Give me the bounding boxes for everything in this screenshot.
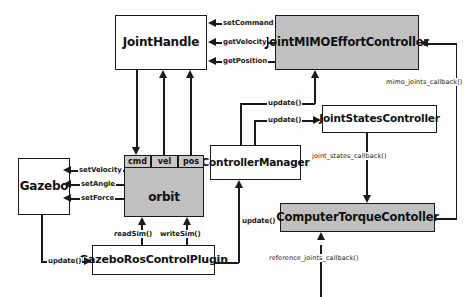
edge-joint-states-callback-arrowhead <box>363 195 371 203</box>
edge-label-get-velocity: getVelocity <box>222 38 267 46</box>
edge-label-set-angle: setAngle <box>80 180 116 188</box>
edge-label-get-position: getPosition <box>222 57 268 65</box>
edge-reference-joints-callback-arrowhead <box>317 232 325 240</box>
edge-update-manager-vertical <box>238 188 240 263</box>
node-orbit-label: orbit <box>148 191 180 204</box>
edge-mimo-callback-bottom-segment <box>435 218 457 220</box>
edge-label-update-states: update() <box>267 116 302 124</box>
node-computer-torque-controller: ComputerTorqueContoller <box>280 203 435 232</box>
edge-update-states-vertical <box>254 120 256 146</box>
node-joint-states-controller-label: JointStatesController <box>319 113 439 124</box>
edge-set-velocity-arrowhead <box>63 166 71 174</box>
edge-mimo-callback-top-segment <box>428 43 457 45</box>
edge-joint-handle-to-cmd-line <box>136 70 138 148</box>
node-gazebo-label: Gazebo <box>20 180 69 193</box>
edge-set-command-arrowhead <box>208 19 216 27</box>
diagram-canvas: JointHandle JointMIMOEffortController Jo… <box>0 0 473 297</box>
edge-label-write-sim: writeSim() <box>159 230 202 238</box>
node-joint-handle: JointHandle <box>115 15 207 70</box>
edge-joint-states-callback-line <box>366 133 368 195</box>
edge-update-states-arrowhead <box>313 116 321 124</box>
edge-update-gazebo-arrowhead <box>84 257 92 265</box>
node-joint-handle-label: JointHandle <box>123 36 199 49</box>
edge-mimo-callback-arrowhead <box>420 39 428 47</box>
node-joint-mimo-effort-controller: JointMIMOEffortController <box>275 15 419 70</box>
edge-label-update-gazebo: update() <box>47 257 82 265</box>
edge-mimo-callback-vertical-segment <box>456 43 458 219</box>
edge-reference-joints-callback-line <box>320 245 322 297</box>
edge-get-velocity-arrowhead <box>208 38 216 46</box>
orbit-slot-pos: pos <box>178 155 204 168</box>
edge-label-joint-states-callback: joint_states_callback() <box>311 152 388 160</box>
edge-label-mimo-joints-callback: mimo_joints_callback() <box>385 78 463 86</box>
edge-update-mimo-vertical-from-manager <box>240 103 242 145</box>
node-computer-torque-controller-label: ComputerTorqueContoller <box>276 211 439 223</box>
node-controller-manager: ControllerManager <box>210 145 301 180</box>
node-gazebo-ros-control-plugin: GazeboRosControlPlugin <box>92 245 215 275</box>
edge-read-sim-arrowhead <box>138 217 146 225</box>
edge-label-set-velocity: setVelocity <box>78 166 123 174</box>
edge-label-read-sim: readSim() <box>113 230 153 238</box>
edge-label-set-force: setForce <box>80 194 115 202</box>
edge-pos-to-joint-handle-line <box>190 78 192 155</box>
edge-set-angle-arrowhead <box>63 180 71 188</box>
edge-label-update-manager: update() <box>241 217 276 225</box>
orbit-slot-cmd-label: cmd <box>128 157 147 166</box>
edge-set-force-arrowhead <box>63 194 71 202</box>
edge-update-manager-horizontal <box>215 262 239 264</box>
edge-label-reference-joints-callback: reference_joints_callback() <box>268 254 360 262</box>
orbit-slot-vel: vel <box>151 155 178 168</box>
node-controller-manager-label: ControllerManager <box>202 157 310 168</box>
edge-update-mimo-arrowhead <box>311 70 319 78</box>
edge-update-gazebo-vertical <box>41 215 43 262</box>
edge-label-set-command: setCommand <box>222 19 275 27</box>
edge-joint-handle-to-cmd-arrowhead <box>132 147 140 155</box>
node-gazebo-ros-control-plugin-label: GazeboRosControlPlugin <box>79 254 228 266</box>
orbit-slot-cmd: cmd <box>124 155 151 168</box>
orbit-slot-pos-label: pos <box>183 157 199 166</box>
orbit-slot-vel-label: vel <box>158 157 171 166</box>
edge-vel-to-joint-handle-line <box>163 78 165 155</box>
node-joint-states-controller: JointStatesController <box>322 105 437 133</box>
edge-vel-to-joint-handle-arrowhead <box>159 70 167 78</box>
edge-update-manager-arrowhead <box>235 180 243 188</box>
edge-get-position-arrowhead <box>208 57 216 65</box>
edge-pos-to-joint-handle-arrowhead <box>186 70 194 78</box>
node-joint-mimo-effort-controller-label: JointMIMOEffortController <box>265 36 429 48</box>
edge-label-update-mimo: update() <box>267 99 302 107</box>
edge-update-mimo-vertical-to-node <box>314 78 316 104</box>
edge-write-sim-arrowhead <box>183 217 191 225</box>
